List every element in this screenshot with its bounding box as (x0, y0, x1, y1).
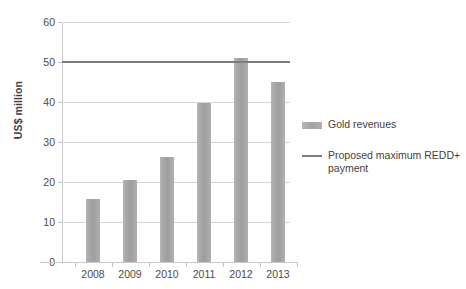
redd-reference-line[interactable] (62, 61, 290, 63)
x-axis-tick (223, 263, 224, 267)
x-axis-tick-label: 2012 (229, 268, 252, 280)
x-axis-tick (75, 263, 76, 267)
gridline: 60 (62, 22, 290, 23)
chart-container: US$ million 0102030405060 Gold revenues … (0, 0, 466, 289)
chart-legend: Gold revenues Proposed maximum REDD+ pay… (302, 118, 466, 193)
legend-label: Proposed maximum REDD+ payment (328, 149, 466, 175)
bar-2011[interactable] (197, 103, 211, 262)
line-swatch-icon (302, 155, 322, 157)
y-axis-tick-label: 10 (43, 216, 55, 228)
x-axis-tick (186, 263, 187, 267)
gridline: 20 (62, 182, 290, 183)
bar-2008[interactable] (86, 199, 100, 262)
bar-2013[interactable] (271, 82, 285, 262)
x-axis-tick-label: 2011 (193, 268, 216, 280)
bar-swatch-icon (302, 122, 322, 129)
y-axis-tick-label: 20 (43, 176, 55, 188)
gridline: 30 (62, 142, 290, 143)
y-axis-title: US$ million (12, 65, 24, 155)
y-axis-tick-label: 60 (43, 16, 55, 28)
y-axis-tick (58, 102, 62, 103)
x-axis-tick (149, 263, 150, 267)
x-axis-tick-label: 2010 (155, 268, 178, 280)
x-axis-tick-label: 2009 (118, 268, 141, 280)
y-axis-tick (58, 142, 62, 143)
y-axis-tick (58, 222, 62, 223)
y-axis-tick (58, 182, 62, 183)
bar-2012[interactable] (234, 58, 248, 262)
legend-label: Gold revenues (328, 118, 396, 131)
y-axis-tick (58, 22, 62, 23)
legend-item-gold-revenues[interactable]: Gold revenues (302, 118, 466, 131)
bar-2010[interactable] (160, 157, 174, 262)
x-axis-tick (297, 263, 298, 267)
bar-2009[interactable] (123, 180, 137, 262)
x-axis-tick (112, 263, 113, 267)
x-axis-tick-label: 2008 (81, 268, 104, 280)
plot-area: 0102030405060 (62, 22, 290, 262)
y-axis-tick-label: 40 (43, 96, 55, 108)
y-axis-tick-label: 50 (43, 56, 55, 68)
y-axis-tick-label: 30 (43, 136, 55, 148)
x-axis-tick (260, 263, 261, 267)
gridline: 40 (62, 102, 290, 103)
legend-item-redd-payment[interactable]: Proposed maximum REDD+ payment (302, 149, 466, 175)
x-axis-tick-label: 2013 (266, 268, 289, 280)
